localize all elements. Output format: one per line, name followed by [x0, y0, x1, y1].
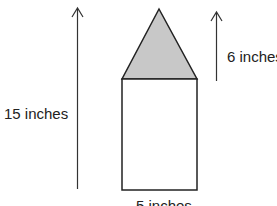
total-height-arrow [72, 8, 83, 189]
rectangle-body [122, 79, 197, 190]
triangle-height-arrow [211, 12, 222, 81]
base-width-label: 5 inches [136, 198, 192, 206]
triangle-height-label: 6 inches [227, 49, 277, 64]
triangle-roof [122, 9, 197, 79]
total-height-label: 15 inches [4, 106, 68, 121]
diagram-canvas [0, 0, 277, 206]
